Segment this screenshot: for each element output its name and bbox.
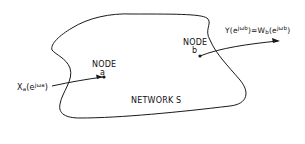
input-arrow-line bbox=[52, 77, 103, 86]
output-signal-label: Y(ejωb)=Wb(ejωb) bbox=[225, 26, 290, 36]
network-label: NETWORK S bbox=[131, 97, 181, 105]
network-diagram bbox=[0, 0, 305, 144]
node-a-name: a bbox=[100, 69, 105, 77]
input-signal-label: Xa(ejωa) bbox=[17, 83, 48, 93]
output-arrowhead-icon bbox=[272, 38, 280, 43]
node-b-name: b bbox=[192, 47, 197, 55]
